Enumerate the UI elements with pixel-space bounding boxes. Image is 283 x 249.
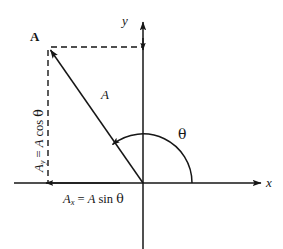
x-component-function: sin — [99, 192, 114, 206]
y-component-subscript: y — [37, 161, 47, 165]
vector-magnitude-label: A — [101, 88, 109, 101]
y-component-symbol: A — [32, 164, 46, 172]
x-component-symbol: A — [63, 192, 71, 206]
y-component-label: Ay = A cos θ — [33, 109, 47, 172]
vector-tip-label: A — [30, 30, 39, 43]
x-component-angle: θ — [116, 191, 124, 206]
x-axis-label: x — [266, 176, 272, 189]
y-component-equals: = — [32, 150, 46, 157]
y-component-magnitude: A — [32, 140, 46, 148]
y-axis-label: y — [122, 14, 128, 27]
y-component-angle: θ — [31, 109, 46, 117]
y-component-function: cos — [32, 120, 46, 137]
vector-component-diagram: y x A A θ Ay = A cos θ Ax = A sin θ — [0, 0, 283, 249]
theta-label: θ — [178, 127, 186, 141]
x-component-label: Ax = A sin θ — [63, 193, 124, 207]
vector-a-line — [51, 50, 144, 183]
x-component-equals: = — [78, 192, 85, 206]
